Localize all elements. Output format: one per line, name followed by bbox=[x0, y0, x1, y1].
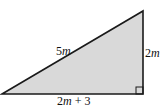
base-label: 2m + 3 bbox=[57, 94, 90, 107]
hypotenuse-label: 5m bbox=[56, 44, 71, 58]
vertical-side-label: 2m bbox=[145, 46, 160, 60]
triangle-diagram: 5m 2m 2m + 3 bbox=[0, 0, 165, 107]
triangle-shape bbox=[2, 11, 143, 94]
